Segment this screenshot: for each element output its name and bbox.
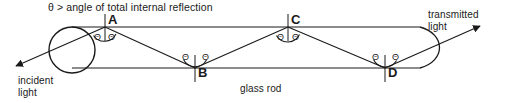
angle-arcs: [94, 34, 397, 67]
ray-segment-c-d: [288, 27, 385, 68]
transmitted-light-label-line2: light: [428, 22, 447, 33]
theta-label-b-left: Θ: [182, 53, 189, 62]
transmitted-light-label-line1: transmitted: [428, 10, 479, 21]
point-label-A: A: [108, 13, 117, 27]
glass-rod-label: glass rod: [240, 84, 281, 95]
theta-label-c-left: Θ: [277, 33, 284, 42]
theta-label-b-right: Θ: [202, 53, 209, 62]
optics-diagram: θ > angle of total internal reflection A…: [0, 0, 506, 103]
surface-normals: [105, 14, 385, 82]
incident-light-label-line1: incident: [18, 76, 53, 87]
incident-ray: [16, 27, 105, 66]
theta-label-a-right: Θ: [108, 33, 115, 42]
theta-label-d-left: Θ: [372, 53, 379, 62]
point-label-B: B: [198, 66, 207, 80]
point-label-C: C: [291, 13, 300, 27]
theta-label-c-right: Θ: [292, 33, 299, 42]
theta-label-d-right: Θ: [392, 53, 399, 62]
point-label-D: D: [388, 66, 397, 80]
incident-light-label-line2: light: [18, 88, 37, 99]
rod-right-convex-end: [420, 27, 440, 68]
theta-label-a-left: Θ: [94, 33, 101, 42]
caption-theta-condition: θ > angle of total internal reflection: [48, 2, 213, 13]
